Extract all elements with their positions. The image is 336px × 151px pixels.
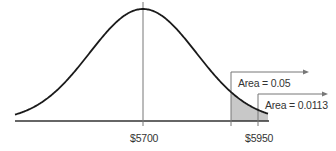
arrow-right-icon xyxy=(303,70,309,75)
area-alpha-label: Area = 0.05 xyxy=(238,78,290,89)
normal-curve xyxy=(15,9,268,115)
arrow-right-icon xyxy=(322,92,328,97)
normal-distribution-chart xyxy=(0,0,336,151)
area-p-label: Area = 0.0113 xyxy=(265,100,328,111)
mean-tick-label: $5700 xyxy=(130,133,158,144)
value-tick-label: $5950 xyxy=(245,133,273,144)
